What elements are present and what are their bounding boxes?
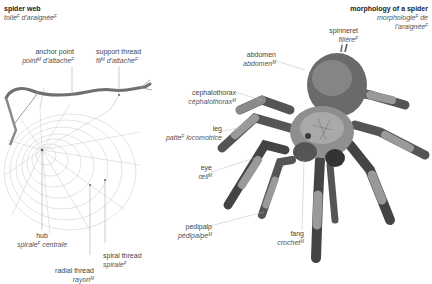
label-spiral-thread: spiral thread spiraleF — [103, 251, 142, 269]
label-radial-thread: radial thread rayonM — [50, 266, 94, 284]
title-fr: toileF d'araignéeF — [4, 13, 57, 22]
label-fang: fang crochetM — [272, 229, 304, 247]
label-support-thread: support thread filM d'attacheF — [96, 47, 141, 65]
title-en: spider web — [4, 4, 57, 13]
spider-web-title: spider web toileF d'araignéeF — [4, 4, 57, 22]
label-spinneret: spinneret filièreF — [318, 26, 358, 44]
label-abdomen: abdomen abdomenM — [232, 50, 276, 68]
label-cephalothorax: cephalothorax céphalothoraxM — [176, 88, 236, 106]
label-leg: leg patteF locomotrice — [160, 124, 222, 142]
label-anchor-point: anchor point pointM d'attacheF — [22, 47, 74, 65]
tarantula-illustration — [222, 44, 425, 258]
branch-illustration — [6, 80, 152, 145]
label-hub: hub spiraleF centrale — [14, 231, 70, 249]
label-pedipalp: pedipalp pédipalpeM — [166, 222, 212, 240]
label-eye: eye œilM — [180, 163, 212, 181]
